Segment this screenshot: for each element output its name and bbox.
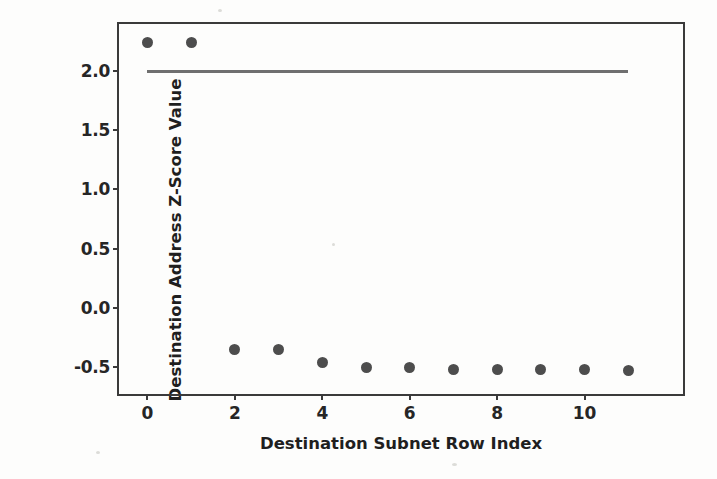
- x-tick-mark: [584, 394, 586, 400]
- y-tick-label: -0.5: [74, 357, 110, 377]
- data-point: [448, 364, 459, 375]
- x-axis-label: Destination Subnet Row Index: [117, 434, 685, 453]
- data-point: [579, 364, 590, 375]
- x-tick-label: 2: [229, 403, 241, 423]
- y-tick-mark: [113, 366, 119, 368]
- y-tick-mark: [113, 307, 119, 309]
- x-tick-label: 6: [404, 403, 416, 423]
- data-point: [229, 344, 240, 355]
- y-tick-mark: [113, 70, 119, 72]
- data-point: [623, 365, 634, 376]
- plot-area: 2.01.51.00.50.0-0.5 0246810: [117, 22, 685, 396]
- chart-page: Destination Address Z-Score Value Destin…: [0, 0, 717, 479]
- data-point: [142, 37, 153, 48]
- y-tick-mark: [113, 248, 119, 250]
- data-point: [492, 364, 503, 375]
- y-tick-mark: [113, 129, 119, 131]
- data-point: [186, 37, 197, 48]
- y-tick-label: 2.0: [81, 61, 110, 81]
- x-tick-mark: [146, 394, 148, 400]
- paper-speckle: [96, 451, 100, 454]
- data-point: [273, 344, 284, 355]
- x-tick-mark: [234, 394, 236, 400]
- x-tick-label: 8: [491, 403, 503, 423]
- y-tick-label: 0.0: [81, 298, 110, 318]
- x-tick-mark: [496, 394, 498, 400]
- data-point: [404, 362, 415, 373]
- threshold-line: [147, 70, 628, 73]
- y-tick-label: 1.0: [81, 179, 110, 199]
- x-tick-label: 0: [141, 403, 153, 423]
- data-point: [361, 362, 372, 373]
- paper-speckle: [452, 463, 457, 466]
- data-point: [535, 364, 546, 375]
- x-tick-label: 10: [573, 403, 597, 423]
- data-point: [317, 357, 328, 368]
- x-tick-mark: [409, 394, 411, 400]
- y-tick-label: 0.5: [81, 239, 110, 259]
- y-tick-mark: [113, 188, 119, 190]
- y-tick-label: 1.5: [81, 120, 110, 140]
- x-tick-label: 4: [316, 403, 328, 423]
- x-tick-mark: [321, 394, 323, 400]
- paper-speckle: [218, 9, 222, 12]
